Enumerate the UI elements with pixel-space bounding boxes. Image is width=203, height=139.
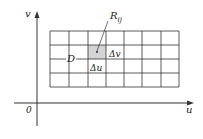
rij-point [96,51,98,53]
axes [14,11,194,126]
origin-label: 0 [26,105,32,115]
delta-u-label: Δu [89,63,102,73]
v-axis-label: v [25,8,31,19]
change-of-variables-diagram: v u 0 D Rij Δv Δu [0,0,203,139]
delta-v-label: Δv [108,49,121,59]
v-axis-arrow-icon [35,11,40,18]
region-d-label: D [66,53,75,64]
u-axis-label: u [186,104,192,115]
rij-label: Rij [109,10,123,24]
